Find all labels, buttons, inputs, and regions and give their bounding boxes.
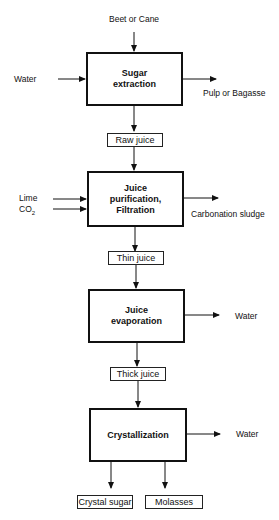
stream-raw-juice: Raw juice: [107, 133, 163, 147]
process-sugar-extraction: Sugar extraction: [86, 52, 183, 106]
product-molasses: Molasses: [145, 495, 203, 509]
extraction-water-label: Water: [14, 74, 36, 84]
process-juice-purification: Juice purification, Filtration: [87, 171, 184, 227]
feed-label: Beet or Cane: [109, 14, 159, 24]
lime-label: Lime: [19, 193, 37, 203]
stream-thick-juice: Thick juice: [110, 367, 166, 381]
co2-text: CO: [19, 204, 32, 214]
co2-label: CO2: [19, 204, 35, 216]
co2-subscript: 2: [32, 210, 35, 216]
process-juice-evaporation: Juice evaporation: [88, 289, 185, 343]
stream-thin-juice: Thin juice: [108, 251, 164, 265]
crystallization-water-label: Water: [236, 429, 258, 439]
evaporation-water-label: Water: [235, 311, 257, 321]
pulp-output-label: Pulp or Bagasse: [203, 88, 265, 98]
process-crystallization: Crystallization: [89, 408, 187, 462]
sludge-output-label: Carbonation sludge: [191, 209, 265, 219]
product-crystal-sugar: Crystal sugar: [77, 495, 133, 509]
